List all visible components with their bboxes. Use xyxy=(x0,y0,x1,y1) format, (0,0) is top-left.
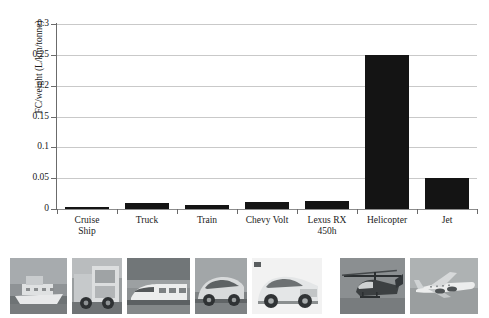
x-tick xyxy=(237,209,238,214)
x-tick xyxy=(57,209,58,214)
photo-strip xyxy=(0,258,489,316)
x-axis-label-cruise-ship: CruiseShip xyxy=(57,215,117,237)
x-axis-label-helicopter: Helicopter xyxy=(357,215,417,226)
x-axis-label-line: Truck xyxy=(117,215,177,226)
bar-cruise-ship[interactable] xyxy=(65,207,109,209)
x-tick xyxy=(297,209,298,214)
truck-photo xyxy=(72,258,122,314)
x-tick xyxy=(477,209,478,214)
x-axis-label-line: Train xyxy=(177,215,237,226)
train-photo xyxy=(127,258,190,314)
x-axis-label-line: Cruise xyxy=(57,215,117,226)
figure: FC/weight (L/km/tonne) 00.050.10.150.20.… xyxy=(0,0,489,318)
bar-train[interactable] xyxy=(185,205,229,209)
plot-area xyxy=(57,24,477,209)
bar-slot xyxy=(297,24,357,209)
x-axis-label-chevy-volt: Chevy Volt xyxy=(237,215,297,226)
bar-slot xyxy=(237,24,297,209)
y-axis-label-0.05: 0.05 xyxy=(0,173,49,183)
x-axis-label-truck: Truck xyxy=(117,215,177,226)
y-axis-label-0.3: 0.3 xyxy=(0,19,49,29)
y-axis-label-0.2: 0.2 xyxy=(0,81,49,91)
bar-slot xyxy=(117,24,177,209)
x-tick xyxy=(177,209,178,214)
x-axis-label-line: Lexus RX xyxy=(297,215,357,226)
y-axis-label-0.15: 0.15 xyxy=(0,112,49,122)
x-axis-label-train: Train xyxy=(177,215,237,226)
bar-slot xyxy=(57,24,117,209)
x-axis-label-lexus-rx-450h: Lexus RX450h xyxy=(297,215,357,237)
y-axis-label-0: 0 xyxy=(0,204,49,214)
bar-slot xyxy=(417,24,477,209)
lexus-rx-450h-photo xyxy=(252,258,322,314)
bar-helicopter[interactable] xyxy=(365,55,409,209)
bar-lexus-rx-450h[interactable] xyxy=(305,201,349,209)
x-axis-label-jet: Jet xyxy=(417,215,477,226)
jet-photo xyxy=(410,258,478,314)
y-axis-label-0.1: 0.1 xyxy=(0,142,49,152)
bar-truck[interactable] xyxy=(125,203,169,209)
y-axis-label-0.25: 0.25 xyxy=(0,50,49,60)
gridline-0 xyxy=(57,209,477,210)
bar-slot xyxy=(177,24,237,209)
bar-jet[interactable] xyxy=(425,178,469,209)
x-tick xyxy=(117,209,118,214)
x-axis-label-line: Ship xyxy=(57,226,117,237)
x-axis-label-line: 450h xyxy=(297,226,357,237)
x-tick xyxy=(357,209,358,214)
x-axis-label-line: Helicopter xyxy=(357,215,417,226)
helicopter-photo xyxy=(340,258,405,314)
bar-chevy-volt[interactable] xyxy=(245,202,289,209)
chevy-volt-photo xyxy=(195,258,247,314)
x-axis-label-line: Jet xyxy=(417,215,477,226)
x-tick xyxy=(417,209,418,214)
x-axis-label-line: Chevy Volt xyxy=(237,215,297,226)
cruise-ship-photo xyxy=(10,258,67,314)
bar-slot xyxy=(357,24,417,209)
